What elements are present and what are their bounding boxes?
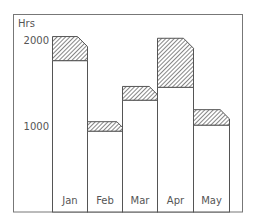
- y-tick-label: 1000: [24, 121, 49, 132]
- stacked-bar-chart: Hrs 10002000 JanFebMarAprMay: [0, 0, 255, 224]
- bar-apr: [158, 38, 194, 212]
- bar-segment-hatched: [158, 38, 194, 87]
- x-tick-label: Mar: [131, 195, 151, 206]
- x-tick-label: May: [201, 195, 222, 206]
- x-tick-label: Feb: [96, 195, 114, 206]
- y-axis-label: Hrs: [18, 18, 35, 29]
- bar-segment-hatched: [88, 122, 123, 131]
- bar-segment-hatched: [53, 37, 88, 61]
- bar-segment-hatched: [123, 86, 158, 100]
- bar-segment-base: [158, 87, 194, 212]
- x-tick-label: Jan: [61, 195, 77, 206]
- y-axis-ticks: 10002000: [24, 35, 49, 132]
- bar-mar: [123, 86, 158, 212]
- bar-segment-hatched: [194, 110, 230, 125]
- bar-segment-base: [53, 61, 88, 212]
- bars: [53, 37, 230, 212]
- x-tick-label: Apr: [167, 195, 185, 206]
- y-tick-label: 2000: [24, 35, 49, 46]
- bar-jan: [53, 37, 88, 212]
